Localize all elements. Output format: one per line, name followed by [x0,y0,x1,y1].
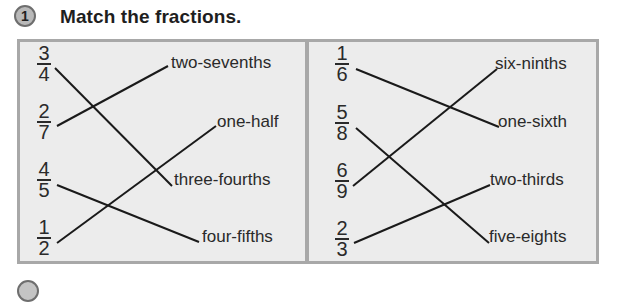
word-two-thirds: two-thirds [490,170,564,190]
numerator: 1 [336,44,347,63]
match-line-5-8-five-eights [356,128,489,243]
denominator: 8 [336,124,347,143]
numerator: 6 [336,161,347,180]
numerator: 2 [336,219,347,238]
numerator: 2 [38,102,49,121]
word-six-ninths: six-ninths [495,54,567,74]
fraction-6-9: 69 [334,161,350,201]
denominator: 9 [336,182,347,201]
fraction-4-5: 45 [36,160,52,200]
word-one-sixth: one-sixth [498,112,567,132]
denominator: 5 [38,181,49,200]
numerator: 5 [336,103,347,122]
fraction-2-3: 23 [334,219,350,259]
word-five-eights: five-eights [489,227,566,247]
denominator: 3 [336,240,347,259]
word-two-sevenths: two-sevenths [171,53,271,73]
denominator: 7 [38,123,49,142]
match-line-2-3-two-thirds [354,185,490,243]
fraction-2-7: 27 [36,102,52,142]
match-line-1-6-one-sixth [356,69,499,127]
denominator: 2 [38,239,49,258]
denominator: 4 [38,65,49,84]
next-exercise-badge [17,280,39,302]
match-line-3-4-three-fourths [55,68,172,186]
match-line-2-7-two-sevenths [57,66,168,126]
match-line-6-9-six-ninths [353,69,497,186]
match-line-4-5-four-fifths [57,185,199,242]
word-four-fifths: four-fifths [202,227,273,247]
fraction-3-4: 34 [36,44,52,84]
numerator: 1 [38,218,49,237]
numerator: 3 [38,44,49,63]
numerator: 4 [38,160,49,179]
denominator: 6 [336,65,347,84]
fraction-1-6: 16 [334,44,350,84]
word-three-fourths: three-fourths [174,170,270,190]
word-one-half: one-half [217,112,278,132]
fraction-1-2: 12 [36,218,52,258]
fraction-5-8: 58 [334,103,350,143]
